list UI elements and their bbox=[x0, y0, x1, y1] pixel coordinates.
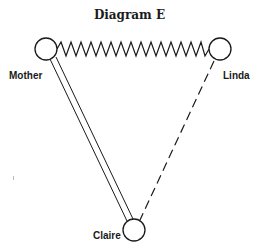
node-claire-label: Claire bbox=[93, 230, 121, 241]
edge-mother-linda-zigzag bbox=[57, 42, 209, 56]
edge-mother-claire-double bbox=[50, 57, 133, 221]
scan-artifact bbox=[13, 176, 14, 180]
node-linda-circle bbox=[209, 38, 231, 60]
edge-linda-claire-dashed bbox=[140, 61, 214, 220]
relationship-diagram bbox=[0, 0, 259, 252]
node-claire-circle bbox=[123, 219, 145, 241]
node-mother-circle bbox=[35, 38, 57, 60]
node-linda-label: Linda bbox=[223, 70, 250, 81]
node-mother-label: Mother bbox=[9, 70, 42, 81]
